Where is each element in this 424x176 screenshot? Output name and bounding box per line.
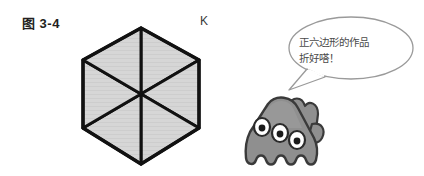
hexagon-diagram (68, 22, 214, 170)
monster-eye-2 (272, 124, 288, 142)
hexagon-triangles (83, 28, 199, 164)
speech-bubble: 正六边形的作品 折好嗒！ (281, 12, 421, 96)
speech-bubble-line-2: 折好嗒！ (299, 50, 403, 66)
speech-bubble-line-1: 正六边形的作品 (299, 34, 403, 50)
figure-caption: 图 3-4 (22, 13, 60, 32)
monster-eye-3 (289, 131, 305, 149)
figure-illustration: 图 3-4 K (0, 0, 424, 176)
monster-eye-1 (254, 118, 270, 136)
monster-character (236, 90, 328, 172)
speech-bubble-text: 正六边形的作品 折好嗒！ (299, 34, 403, 66)
